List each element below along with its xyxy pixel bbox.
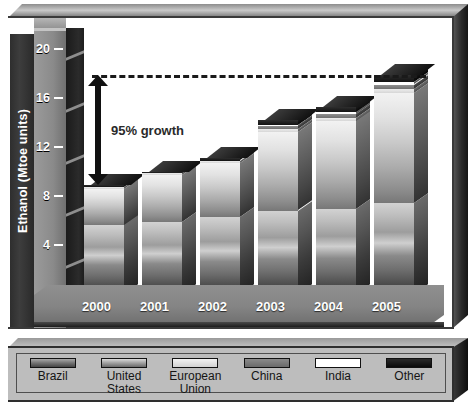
chart-screenshot: Ethanol (Mtoe units) 201612840 95% growt…: [0, 0, 476, 406]
bar-segment-side: [298, 201, 312, 294]
bar-segment-front: [142, 222, 182, 294]
bar-segment-front: [258, 211, 298, 294]
bar-segment-side: [356, 111, 370, 209]
bar-segment[interactable]: [200, 163, 240, 217]
x-axis-label: 2001: [140, 299, 169, 314]
legend-item[interactable]: Brazil: [17, 358, 88, 383]
legend-label: India: [302, 370, 373, 383]
bar-column[interactable]: [316, 107, 356, 294]
legend-swatch: [386, 358, 432, 368]
bar-segment[interactable]: [84, 225, 124, 294]
bar-column[interactable]: [258, 120, 298, 294]
legend-label: China: [231, 370, 302, 383]
bar-segment-side: [124, 216, 138, 294]
legend-swatch: [30, 358, 76, 368]
bar-segment-side: [414, 83, 428, 203]
bar-segment-front: [142, 175, 182, 222]
bar-column[interactable]: [200, 158, 240, 294]
bar-segment-front: [374, 93, 414, 203]
legend-label-line2: States: [88, 383, 159, 396]
bar-segment-side: [298, 123, 312, 211]
bar-stack: [200, 158, 240, 294]
bar-column[interactable]: [142, 172, 182, 295]
bar-segment[interactable]: [374, 203, 414, 294]
bar-column[interactable]: [84, 185, 124, 294]
legend-label: Brazil: [17, 370, 88, 383]
legend-item[interactable]: EuropeanUnion: [160, 358, 231, 396]
x-axis-label: 2000: [82, 299, 111, 314]
bar-segment[interactable]: [316, 209, 356, 294]
bar-segment-front: [316, 121, 356, 209]
legend-item[interactable]: India: [302, 358, 373, 383]
x-axis-label: 2005: [372, 299, 401, 314]
bar-stack: [258, 120, 298, 294]
bar-segment[interactable]: [374, 93, 414, 203]
bar-segment-side: [182, 212, 196, 294]
reference-line: [92, 75, 426, 78]
bar-segment[interactable]: [200, 217, 240, 294]
bar-segment-side: [414, 194, 428, 294]
bar-segment[interactable]: [142, 175, 182, 222]
legend-right-bevel: [452, 338, 468, 402]
bar-segment-front: [200, 163, 240, 217]
x-axis-label: 2004: [314, 299, 343, 314]
bar-segment[interactable]: [84, 189, 124, 226]
bars-layer: [8, 18, 454, 331]
x-axis-label: 2003: [256, 299, 285, 314]
bar-segment[interactable]: [316, 121, 356, 209]
x-axis-labels: 200020012002200320042005: [66, 299, 444, 319]
growth-annotation-label: 95% growth: [111, 123, 184, 138]
bar-segment-front: [258, 132, 298, 210]
bar-stack: [316, 107, 356, 294]
growth-arrow: [88, 75, 108, 185]
legend-panel: BrazilUnitedStatesEuropeanUnionChinaIndi…: [8, 338, 468, 402]
bar-segment-front: [200, 217, 240, 294]
legend-swatch: [244, 358, 290, 368]
panel-right-bevel: [452, 4, 468, 329]
plot-body: Ethanol (Mtoe units) 201612840 95% growt…: [8, 16, 454, 329]
bar-segment[interactable]: [258, 132, 298, 210]
legend-body: BrazilUnitedStatesEuropeanUnionChinaIndi…: [8, 346, 454, 402]
bar-stack: [374, 75, 414, 294]
legend-label-line2: Union: [160, 383, 231, 396]
bar-stack: [142, 172, 182, 294]
bar-column[interactable]: [374, 75, 414, 294]
legend-item[interactable]: UnitedStates: [88, 358, 159, 396]
legend-swatch: [172, 358, 218, 368]
bar-segment-front: [84, 189, 124, 226]
arrow-shaft: [95, 84, 101, 176]
bar-segment-front: [316, 209, 356, 294]
bar-segment-side: [240, 207, 254, 294]
x-axis-label: 2002: [198, 299, 227, 314]
legend-item[interactable]: China: [231, 358, 302, 383]
legend-swatch: [101, 358, 147, 368]
bar-stack: [84, 185, 124, 294]
bar-segment[interactable]: [258, 211, 298, 294]
arrow-head-down-icon: [88, 174, 108, 185]
legend-items: BrazilUnitedStatesEuropeanUnionChinaIndi…: [16, 353, 446, 393]
chart-floor-edge: [34, 322, 444, 327]
legend-swatch: [315, 358, 361, 368]
chart-panel: Ethanol (Mtoe units) 201612840 95% growt…: [8, 4, 468, 329]
bar-segment-side: [356, 200, 370, 294]
bar-segment[interactable]: [142, 222, 182, 294]
bar-segment-front: [84, 225, 124, 294]
legend-label: Other: [374, 370, 445, 383]
bar-segment-front: [374, 203, 414, 294]
legend-item[interactable]: Other: [374, 358, 445, 383]
